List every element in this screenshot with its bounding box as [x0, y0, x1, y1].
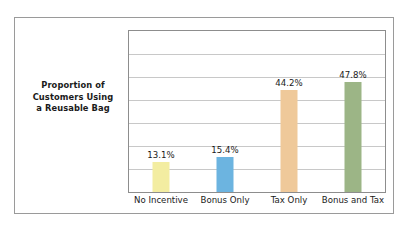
bar-group: 44.2%	[257, 31, 321, 192]
category-label: No Incentive	[134, 195, 188, 205]
category-label: Tax Only	[271, 195, 308, 205]
bar-value-label: 47.8%	[339, 70, 366, 80]
bar-group: 47.8%	[321, 31, 385, 192]
y-axis-title-line-2: Customers Using	[21, 92, 125, 104]
bar-value-label: 44.2%	[275, 78, 302, 88]
plot-area: 13.1%15.4%44.2%47.8%	[129, 31, 385, 192]
bar	[217, 157, 234, 192]
y-axis-title-line-3: a Reusable Bag	[21, 103, 125, 115]
bar	[345, 82, 362, 192]
figure-inner: Proportion of Customers Using a Reusable…	[15, 18, 393, 213]
category-label: Bonus and Tax	[322, 195, 384, 205]
y-axis-title-line-1: Proportion of	[21, 80, 125, 92]
y-axis-title: Proportion of Customers Using a Reusable…	[21, 80, 125, 115]
bar-group: 13.1%	[129, 31, 193, 192]
category-axis: No IncentiveBonus OnlyTax OnlyBonus and …	[128, 195, 386, 211]
category-label: Bonus Only	[201, 195, 250, 205]
bar-value-label: 13.1%	[147, 150, 174, 160]
bar	[153, 162, 170, 192]
plot-frame: 13.1%15.4%44.2%47.8%	[128, 30, 386, 193]
bar-group: 15.4%	[193, 31, 257, 192]
bar	[281, 90, 298, 192]
bar-value-label: 15.4%	[211, 145, 238, 155]
chart-figure: Proportion of Customers Using a Reusable…	[14, 17, 394, 214]
